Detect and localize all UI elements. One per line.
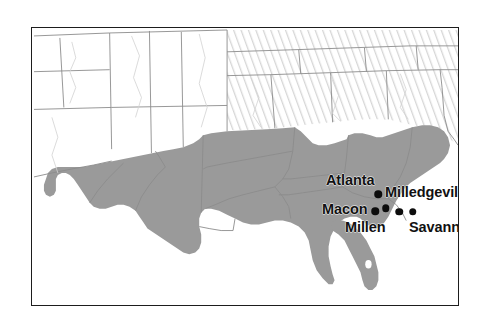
city-label-savannah: Savannah (409, 220, 459, 235)
florida-lake (365, 260, 371, 268)
city-marker-millen[interactable] (395, 208, 403, 216)
us-map-graphic (32, 28, 458, 305)
map-frame-border: Atlanta Milledgeville Macon Millen Savan… (31, 27, 459, 306)
city-marker-savannah[interactable] (409, 208, 417, 216)
city-label-macon: Macon (322, 202, 367, 217)
city-marker-milledgeville[interactable] (382, 204, 390, 212)
map-figure: Atlanta Milledgeville Macon Millen Savan… (0, 0, 489, 331)
city-label-atlanta: Atlanta (326, 173, 374, 188)
city-marker-macon[interactable] (371, 207, 379, 215)
city-label-milledgeville: Milledgeville (385, 185, 459, 200)
city-marker-atlanta[interactable] (374, 190, 382, 198)
city-label-millen: Millen (345, 220, 386, 235)
